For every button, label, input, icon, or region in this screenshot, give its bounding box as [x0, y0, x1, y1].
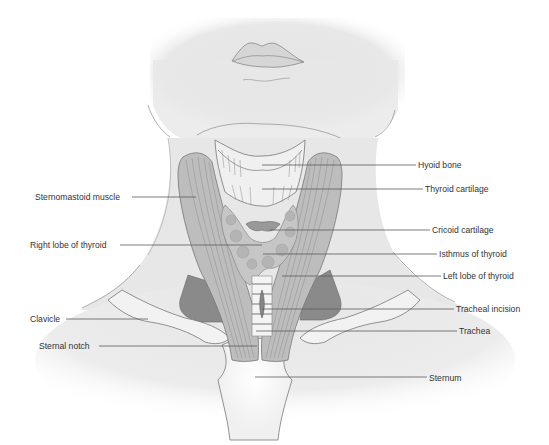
label-left-lobe-of-thyroid: Left lobe of thyroid [443, 271, 514, 281]
anatomy-illustration [0, 0, 549, 445]
label-clavicle: Clavicle [30, 314, 60, 324]
label-hyoid-bone: Hyoid bone [418, 160, 461, 170]
neck-anatomy-figure: Sternomastoid muscle Right lobe of thyro… [0, 0, 549, 445]
label-thyroid-cartilage: Thyroid cartilage [425, 184, 489, 194]
label-cricoid-cartilage: Cricoid cartilage [432, 225, 494, 235]
label-sternomastoid-muscle: Sternomastoid muscle [35, 192, 120, 202]
label-tracheal-incision: Tracheal incision [456, 304, 520, 314]
trachea [252, 276, 272, 336]
label-trachea: Trachea [459, 326, 490, 336]
label-right-lobe-of-thyroid: Right lobe of thyroid [30, 240, 106, 250]
label-sternal-notch: Sternal notch [39, 341, 90, 351]
label-isthmus-of-thyroid: Isthmus of thyroid [439, 249, 507, 259]
label-sternum: Sternum [429, 373, 461, 383]
face-region [148, 18, 405, 140]
